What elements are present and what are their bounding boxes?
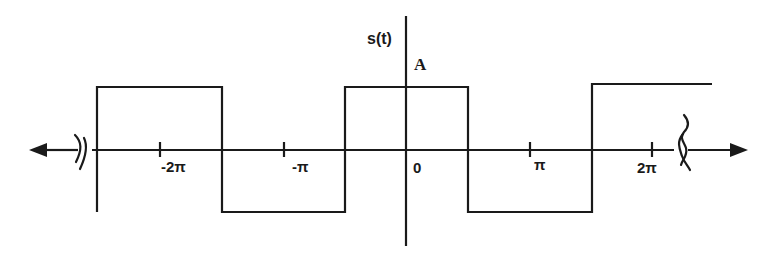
tick-label-neg-pi: -π [292,159,308,174]
square-wave-diagram: s(t) A 0 -2π -π π 2π [0,0,765,260]
square-wave-trace [97,84,712,212]
tick-label-pi: π [534,157,545,172]
tick-label-neg-2pi: -2π [161,159,186,174]
right-arrow-icon [730,143,748,157]
function-label: s(t) [367,31,392,47]
right-axis-break-icon [679,115,690,170]
tick-label-2pi: 2π [637,160,657,175]
amplitude-label: A [414,56,426,73]
left-arrow-icon [29,143,47,157]
origin-label: 0 [413,160,421,175]
left-axis-break-icon [75,135,86,169]
